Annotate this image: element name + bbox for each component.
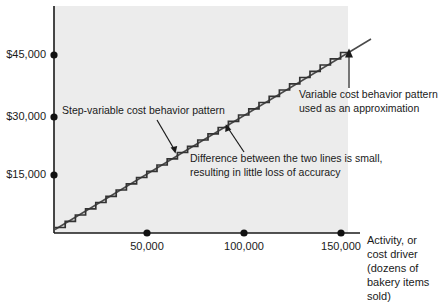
difference-line-1: Difference between the two lines is smal…	[190, 152, 382, 166]
x-axis-title-line-1: Activity, or	[367, 233, 433, 247]
variable-approximation-line-2: used as an approximation	[299, 102, 438, 116]
y-tick-label-30000: $30,000	[2, 110, 46, 123]
x-axis-title-line-2: cost driver	[367, 247, 433, 261]
x-tick-dot-100000	[240, 229, 247, 236]
variable-approximation-line-1: Variable cost behavior pattern	[299, 88, 438, 102]
variable-approximation-annotation-label: Variable cost behavior pattern used as a…	[299, 88, 438, 115]
x-tick-label-100000: 100,000	[206, 240, 282, 253]
x-tick-dot-50000	[143, 229, 150, 236]
y-tick-dot-30000	[50, 113, 57, 120]
x-axis-title-line-4: bakery items	[367, 275, 433, 289]
x-tick-dot-150000	[337, 229, 344, 236]
x-axis-title-line-5: sold)	[367, 289, 433, 303]
difference-annotation-label: Difference between the two lines is smal…	[190, 152, 382, 179]
x-tick-label-50000: 50,000	[112, 240, 182, 253]
difference-line-2: resulting in little loss of accuracy	[190, 166, 382, 180]
step-variable-annotation-label: Step-variable cost behavior pattern	[62, 104, 225, 118]
y-tick-label-15000: $15,000	[2, 168, 46, 181]
x-axis-title-line-3: (dozens of	[367, 261, 433, 275]
y-tick-label-45000: $45,000	[2, 48, 46, 61]
plot-area-background	[54, 6, 348, 233]
y-tick-dot-45000	[50, 51, 57, 58]
x-axis-title: Activity, or cost driver (dozens of bake…	[367, 233, 433, 303]
y-tick-dot-15000	[50, 171, 57, 178]
